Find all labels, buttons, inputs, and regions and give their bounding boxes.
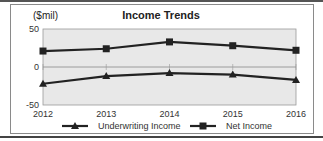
square-marker <box>229 42 236 49</box>
square-marker <box>166 38 173 45</box>
y-tick-label: 50 <box>29 24 39 34</box>
square-marker <box>103 45 110 52</box>
x-tick-label: 2015 <box>223 109 243 119</box>
chart-title: Income Trends <box>122 9 200 21</box>
x-tick-label: 2016 <box>286 109 306 119</box>
square-marker <box>40 48 47 55</box>
legend-label: Underwriting Income <box>98 121 181 131</box>
legend-label: Net Income <box>226 121 272 131</box>
y-axis-unit-label: ($mil) <box>33 10 58 21</box>
square-marker <box>293 47 300 54</box>
y-tick-label: 0 <box>34 62 39 72</box>
income-trends-chart: Income Trends($mil)500-50201220132014201… <box>0 0 323 141</box>
legend-square-icon <box>200 123 207 130</box>
x-tick-label: 2012 <box>33 109 53 119</box>
x-tick-label: 2014 <box>159 109 179 119</box>
x-tick-label: 2013 <box>96 109 116 119</box>
